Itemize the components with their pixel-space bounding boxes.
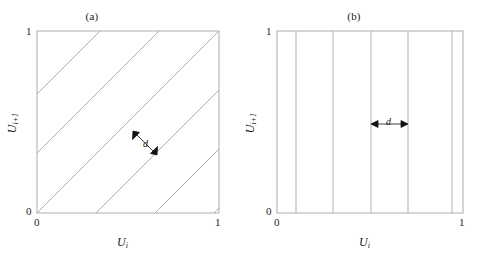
figure-root: (a)	[0, 0, 488, 266]
panel-a-xtick-right: 1	[215, 217, 221, 228]
panel-b-d-label: d	[386, 117, 391, 127]
panel-b-yaxis-subscript: i+1	[249, 113, 258, 125]
panel-a-xtick-left: 0	[34, 217, 40, 228]
panel-b-ytick-top: 1	[266, 26, 272, 37]
panel-a-xaxis-subscript: i	[126, 241, 128, 250]
panel-b-yaxis-title: Ui+1	[244, 103, 260, 143]
panel-a-xaxis-title: Ui	[117, 236, 128, 252]
panel-b-xtick-right: 1	[459, 217, 465, 228]
panel-b-ytick-bottom: 0	[266, 206, 272, 217]
panel-b: (b) d	[244, 0, 488, 266]
panel-b-xaxis-symbol: U	[359, 235, 368, 249]
panel-a-yaxis-title: Ui+1	[6, 103, 22, 143]
panel-a: (a)	[0, 0, 244, 266]
panel-a-ytick-bottom: 0	[26, 206, 32, 217]
panel-a-yaxis-symbol: U	[5, 125, 19, 134]
panel-b-yaxis-symbol: U	[243, 125, 257, 134]
panel-a-xaxis-symbol: U	[117, 235, 126, 249]
panel-b-frame	[277, 31, 463, 213]
panel-b-plot	[244, 0, 488, 266]
panel-a-yaxis-subscript: i+1	[11, 113, 20, 125]
panel-b-xaxis-subscript: i	[368, 241, 370, 250]
panel-b-xtick-left: 0	[274, 217, 280, 228]
panel-a-ytick-top: 1	[26, 26, 32, 37]
panel-a-d-label: d	[143, 139, 148, 149]
panel-b-xaxis-title: Ui	[359, 236, 370, 252]
panel-b-line-family	[296, 31, 452, 213]
